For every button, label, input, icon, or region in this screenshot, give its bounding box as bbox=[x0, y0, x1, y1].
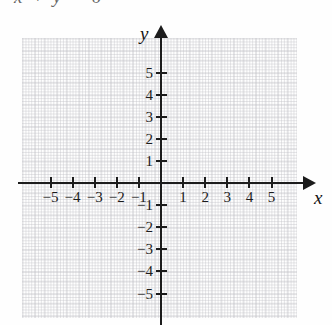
y-axis-tick-label: −3 bbox=[127, 242, 153, 257]
y-axis-tick-label: 1 bbox=[127, 154, 153, 169]
x-axis-tick bbox=[138, 177, 140, 188]
y-axis-label: y bbox=[140, 24, 148, 43]
clipped-caption: x + y = 6 bbox=[0, 0, 332, 12]
x-axis-label: x bbox=[314, 188, 322, 207]
y-axis-tick bbox=[156, 293, 167, 295]
x-axis-line bbox=[18, 182, 311, 184]
y-axis-tick bbox=[156, 226, 167, 228]
x-axis-tick bbox=[271, 177, 273, 188]
x-axis-tick bbox=[204, 177, 206, 188]
y-axis-tick-label: −2 bbox=[127, 220, 153, 235]
x-axis-tick bbox=[248, 177, 250, 188]
y-axis-tick-label: −5 bbox=[127, 287, 153, 302]
x-axis-tick bbox=[182, 177, 184, 188]
x-axis-tick-label: 5 bbox=[259, 190, 285, 205]
y-axis-tick bbox=[156, 204, 167, 206]
x-axis-tick bbox=[72, 177, 74, 188]
x-axis-tick bbox=[116, 177, 118, 188]
y-axis-tick-label: −1 bbox=[127, 198, 153, 213]
y-axis-tick-label: 5 bbox=[127, 66, 153, 81]
x-axis-tick bbox=[226, 177, 228, 188]
clipped-caption-text: x + y = 6 bbox=[14, 0, 103, 8]
y-axis-tick-label: 2 bbox=[127, 132, 153, 147]
y-axis-tick bbox=[156, 248, 167, 250]
y-axis-line bbox=[160, 32, 162, 325]
y-axis-tick bbox=[156, 138, 167, 140]
y-axis-arrow-icon bbox=[154, 25, 168, 38]
y-axis-tick-label: −4 bbox=[127, 264, 153, 279]
y-axis-tick-label: 3 bbox=[127, 110, 153, 125]
coordinate-plane-figure: x + y = 6 y x −5−4−3−2−11234554321−1−2−3… bbox=[0, 0, 332, 325]
y-axis-tick bbox=[156, 94, 167, 96]
x-axis-tick bbox=[50, 177, 52, 188]
y-axis-tick bbox=[156, 270, 167, 272]
x-axis-tick bbox=[94, 177, 96, 188]
y-axis-tick-label: 4 bbox=[127, 88, 153, 103]
y-axis-tick bbox=[156, 72, 167, 74]
y-axis-tick bbox=[156, 116, 167, 118]
y-axis-tick bbox=[156, 160, 167, 162]
